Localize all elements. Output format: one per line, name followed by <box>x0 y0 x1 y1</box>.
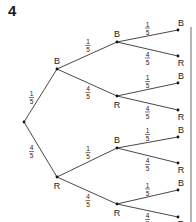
node-dot <box>116 147 119 150</box>
probability-denominator: 5 <box>146 220 150 222</box>
probability-denominator: 5 <box>146 113 150 120</box>
node-dot <box>177 82 180 85</box>
node-dot <box>56 68 59 71</box>
node-dot <box>56 176 59 179</box>
node-dot <box>116 41 119 44</box>
probability-denominator: 5 <box>146 59 150 66</box>
outcome-label: R <box>178 219 185 222</box>
outcome-label: R <box>178 112 185 122</box>
node-dot <box>177 189 180 192</box>
probability-numerator: 4 <box>86 85 90 92</box>
outcome-label: B <box>54 56 60 66</box>
probability-numerator: 4 <box>146 105 150 112</box>
probability-numerator: 4 <box>146 157 150 164</box>
node-dot <box>177 55 180 58</box>
outcome-label: B <box>114 135 120 145</box>
probability-numerator: 1 <box>30 90 34 97</box>
probability-numerator: 1 <box>146 21 150 28</box>
probability-numerator: 1 <box>146 127 150 134</box>
probability-denominator: 5 <box>86 201 90 208</box>
probability-denominator: 5 <box>30 152 34 159</box>
probability-denominator: 5 <box>86 153 90 160</box>
probability-denominator: 5 <box>146 29 150 36</box>
outcome-label: B <box>114 29 120 39</box>
probability-numerator: 1 <box>146 182 150 189</box>
node-dot <box>177 109 180 112</box>
probability-numerator: 1 <box>146 74 150 81</box>
probability-denominator: 5 <box>146 135 150 142</box>
outcome-label: R <box>178 58 185 68</box>
probability-denominator: 5 <box>86 93 90 100</box>
outcome-label: B <box>178 178 184 188</box>
probability-denominator: 5 <box>86 46 90 53</box>
node-dot <box>177 136 180 139</box>
probability-denominator: 5 <box>146 82 150 89</box>
outcome-label: R <box>54 181 61 191</box>
outcome-label: R <box>114 100 121 110</box>
probability-numerator: 4 <box>146 212 150 219</box>
outcome-label: B <box>178 18 184 28</box>
outcome-label: R <box>114 208 121 218</box>
node-dot <box>177 29 180 32</box>
probability-denominator: 5 <box>30 98 34 105</box>
probability-numerator: 4 <box>146 51 150 58</box>
outcome-label: R <box>178 165 185 175</box>
outcome-label: B <box>178 125 184 135</box>
probability-numerator: 1 <box>86 38 90 45</box>
probability-numerator: 1 <box>86 145 90 152</box>
probability-tree-diagram: 15B45R15B45R15B45R15B45R15B45R15B45R15B4… <box>0 0 196 222</box>
node-dot <box>116 203 119 206</box>
node-dot <box>177 162 180 165</box>
probability-denominator: 5 <box>146 165 150 172</box>
probability-numerator: 4 <box>30 144 34 151</box>
node-dot <box>177 216 180 219</box>
node-dot <box>23 121 26 124</box>
probability-numerator: 4 <box>86 193 90 200</box>
outcome-label: B <box>178 71 184 81</box>
probability-denominator: 5 <box>146 190 150 197</box>
node-dot <box>116 95 119 98</box>
